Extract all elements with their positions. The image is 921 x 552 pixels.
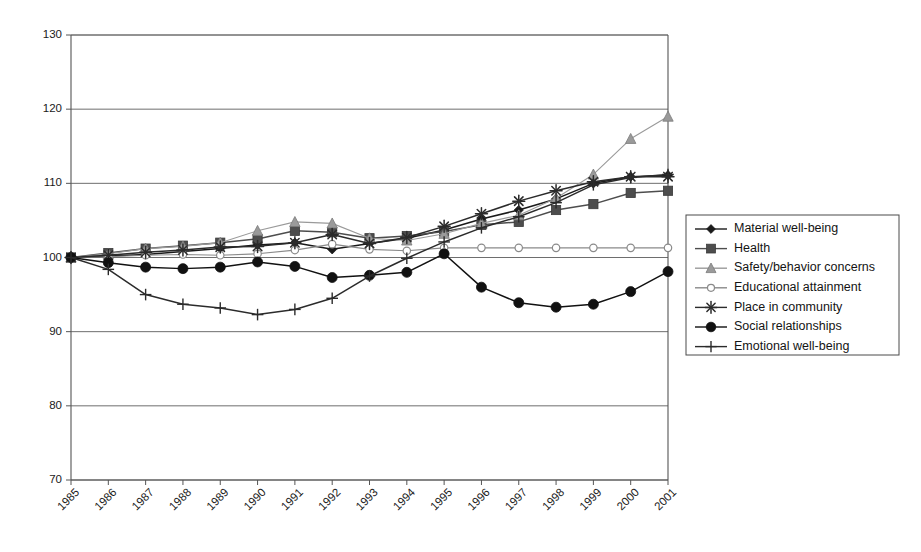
axis-layer bbox=[66, 35, 668, 485]
series-place-in-community bbox=[65, 171, 674, 264]
x-tick-label: 1985 bbox=[55, 486, 82, 513]
marker-plus bbox=[401, 252, 413, 264]
marker-asterisk bbox=[289, 237, 301, 249]
grid-layer bbox=[71, 35, 668, 480]
marker-open-circle bbox=[478, 244, 485, 251]
y-tick-label: 130 bbox=[43, 28, 62, 40]
marker-open-circle bbox=[664, 244, 671, 251]
marker-filled-circle bbox=[588, 299, 598, 309]
marker-filled-circle bbox=[215, 262, 225, 272]
x-tick-label: 1986 bbox=[92, 486, 119, 513]
x-tick-label: 1991 bbox=[279, 486, 306, 513]
x-tick-label: 1990 bbox=[241, 486, 268, 513]
marker-filled-circle bbox=[253, 257, 263, 267]
marker-filled-circle bbox=[706, 322, 716, 332]
legend-item-social-relationships[interactable]: Social relationships bbox=[695, 319, 842, 333]
legend-item-label: Place in community bbox=[734, 300, 843, 314]
marker-plus bbox=[662, 169, 674, 181]
marker-asterisk bbox=[401, 231, 413, 243]
y-tick-label: 120 bbox=[43, 102, 62, 114]
marker-filled-square bbox=[589, 200, 598, 209]
marker-filled-circle bbox=[663, 267, 673, 277]
marker-filled-square bbox=[663, 186, 672, 195]
legend-item-educational-attainment[interactable]: Educational attainment bbox=[695, 280, 862, 294]
legend-item-label: Social relationships bbox=[734, 319, 842, 333]
x-tick-label: 1995 bbox=[428, 486, 455, 513]
x-tick-label: 1994 bbox=[391, 486, 418, 513]
x-tick-label: 1997 bbox=[503, 486, 530, 513]
marker-asterisk bbox=[140, 246, 152, 258]
marker-filled-circle bbox=[626, 287, 636, 297]
legend-item-label: Safety/behavior concerns bbox=[734, 260, 875, 274]
marker-asterisk bbox=[438, 220, 450, 232]
marker-plus bbox=[252, 309, 264, 321]
legend: Material well-beingHealthSafety/behavior… bbox=[686, 215, 899, 355]
x-tick-label: 2001 bbox=[652, 486, 679, 513]
marker-filled-circle bbox=[476, 282, 486, 292]
marker-plus bbox=[289, 304, 301, 316]
y-tick-label: 80 bbox=[49, 399, 62, 411]
marker-filled-circle bbox=[290, 261, 300, 271]
marker-plus bbox=[214, 302, 226, 314]
x-tick-label: 1999 bbox=[577, 486, 604, 513]
marker-asterisk bbox=[252, 240, 264, 252]
marker-open-circle bbox=[708, 284, 715, 291]
marker-asterisk bbox=[513, 195, 525, 207]
marker-asterisk bbox=[364, 237, 376, 249]
marker-filled-circle bbox=[327, 273, 337, 283]
legend-item-safety-behavior-concerns[interactable]: Safety/behavior concerns bbox=[695, 260, 875, 274]
x-tick-label: 1996 bbox=[465, 486, 492, 513]
x-tick-label: 1988 bbox=[167, 486, 194, 513]
marker-asterisk bbox=[550, 185, 562, 197]
marker-open-circle bbox=[328, 240, 335, 247]
marker-plus bbox=[140, 289, 152, 301]
legend-item-label: Educational attainment bbox=[734, 280, 862, 294]
y-tick-label: 90 bbox=[49, 325, 62, 337]
marker-filled-circle bbox=[178, 264, 188, 274]
marker-filled-square bbox=[626, 188, 635, 197]
ytick-label-layer: 708090100110120130 bbox=[43, 28, 62, 485]
legend-item-emotional-well-being[interactable]: Emotional well-being bbox=[695, 339, 849, 353]
line-chart: 708090100110120130 198519861987198819891… bbox=[0, 0, 921, 552]
x-tick-label: 1987 bbox=[129, 486, 156, 513]
marker-filled-circle bbox=[551, 302, 561, 312]
x-tick-label: 1993 bbox=[353, 486, 380, 513]
legend-item-health[interactable]: Health bbox=[695, 241, 770, 255]
marker-asterisk bbox=[177, 244, 189, 256]
marker-open-circle bbox=[515, 244, 522, 251]
marker-filled-circle bbox=[141, 262, 151, 272]
x-tick-label: 2000 bbox=[615, 486, 642, 513]
marker-filled-circle bbox=[402, 267, 412, 277]
marker-asterisk bbox=[705, 302, 717, 314]
marker-asterisk bbox=[326, 229, 338, 241]
x-tick-label: 1992 bbox=[316, 486, 343, 513]
legend-item-label: Material well-being bbox=[734, 221, 838, 235]
marker-filled-triangle bbox=[625, 133, 635, 143]
xtick-label-layer: 1985198619871988198919901991199219931994… bbox=[55, 486, 679, 513]
legend-item-label: Health bbox=[734, 241, 770, 255]
x-tick-label: 1998 bbox=[540, 486, 567, 513]
marker-filled-circle bbox=[514, 298, 524, 308]
marker-open-circle bbox=[552, 244, 559, 251]
y-tick-label: 110 bbox=[44, 176, 62, 188]
legend-item-material-well-being[interactable]: Material well-being bbox=[695, 221, 838, 235]
marker-open-circle bbox=[627, 244, 634, 251]
marker-plus bbox=[326, 292, 338, 304]
marker-asterisk bbox=[214, 241, 226, 253]
marker-asterisk bbox=[475, 208, 487, 220]
legend-item-label: Emotional well-being bbox=[734, 339, 849, 353]
x-tick-label: 1989 bbox=[204, 486, 231, 513]
chart-canvas: 708090100110120130 198519861987198819891… bbox=[0, 0, 921, 552]
series-layer bbox=[65, 111, 674, 320]
marker-plus bbox=[177, 298, 189, 310]
marker-filled-diamond bbox=[707, 225, 716, 234]
marker-open-circle bbox=[590, 244, 597, 251]
y-tick-label: 70 bbox=[49, 473, 62, 485]
marker-plus bbox=[705, 341, 716, 352]
marker-filled-triangle bbox=[663, 111, 673, 121]
marker-filled-square bbox=[290, 226, 299, 235]
marker-filled-circle bbox=[439, 249, 449, 259]
y-tick-label: 100 bbox=[43, 251, 62, 263]
marker-filled-square bbox=[707, 244, 716, 253]
legend-item-place-in-community[interactable]: Place in community bbox=[695, 300, 843, 314]
